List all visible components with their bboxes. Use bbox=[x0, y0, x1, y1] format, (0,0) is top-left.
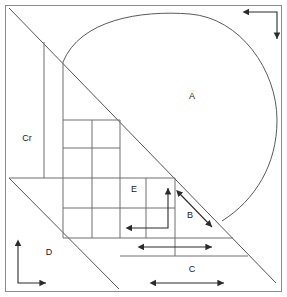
b-diagonal-arrow bbox=[180, 194, 212, 227]
lower-left-diagonal-line bbox=[9, 178, 119, 289]
geometric-diagram: A B C D E Cr bbox=[0, 0, 287, 297]
diagram-canvas: A B C D E Cr bbox=[0, 0, 287, 297]
label-c: C bbox=[189, 264, 196, 274]
top-right-corner-arrow bbox=[248, 12, 277, 39]
label-e: E bbox=[131, 184, 137, 194]
label-a: A bbox=[189, 91, 195, 101]
d-origin-axes-arrow bbox=[18, 245, 46, 283]
teardrop-curve bbox=[63, 13, 277, 221]
label-cr: Cr bbox=[22, 133, 32, 143]
label-b: B bbox=[187, 210, 193, 220]
main-diagonal-line bbox=[9, 8, 276, 283]
label-d: D bbox=[46, 247, 53, 257]
